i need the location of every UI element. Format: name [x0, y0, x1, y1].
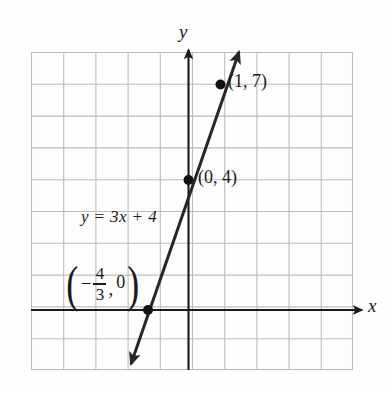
y-axis-label: y [179, 22, 187, 41]
point-label-x-intercept: ( − 4 3 , 0 ) [64, 258, 142, 310]
point-marker-1-7 [216, 80, 226, 90]
fraction-numerator: 4 [94, 265, 107, 283]
comma-separator: , [107, 279, 116, 298]
equation-label: y = 3x + 4 [81, 208, 157, 225]
x-axis-label: x [368, 296, 376, 315]
point-marker-x-intercept [143, 305, 153, 315]
fraction-four-thirds: 4 3 [93, 265, 106, 303]
point-marker-0-4 [184, 175, 194, 185]
zero-value: 0 [116, 273, 125, 291]
close-paren: ) [127, 264, 139, 305]
fraction-denominator: 3 [94, 285, 107, 303]
open-paren: ( [66, 264, 78, 305]
point-label-0-4: (0, 4) [198, 168, 237, 186]
point-label-1-7: (1, 7) [228, 72, 267, 90]
minus-sign: − [81, 274, 93, 293]
coordinate-plane [0, 0, 388, 394]
graph-figure: y x (1, 7) (0, 4) y = 3x + 4 ( − 4 3 , 0… [0, 0, 388, 394]
